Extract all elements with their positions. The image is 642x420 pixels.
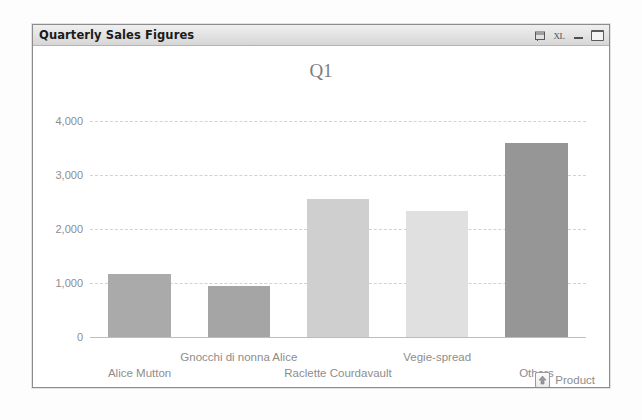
export-report-icon[interactable] — [533, 29, 546, 42]
chart-window: Quarterly Sales Figures XL Q1 01,0002 — [32, 24, 610, 388]
y-tick-label: 1,000 — [55, 277, 83, 289]
plot-area: 01,0002,0003,0004,000 — [90, 121, 586, 337]
page-background: Quarterly Sales Figures XL Q1 01,0002 — [0, 0, 642, 420]
window-titlebar[interactable]: Quarterly Sales Figures XL — [33, 25, 609, 46]
chart-client-area: Q1 01,0002,0003,0004,000 Alice MuttonGno… — [33, 46, 609, 387]
export-excel-icon[interactable]: XL — [552, 29, 566, 42]
minimize-button[interactable] — [572, 29, 585, 42]
x-tick-label[interactable]: Raclette Courdavault — [284, 367, 391, 379]
bar[interactable] — [307, 199, 369, 337]
window-title: Quarterly Sales Figures — [33, 28, 194, 42]
y-tick-label: 2,000 — [55, 223, 83, 235]
x-axis-title-group: Product — [535, 372, 595, 387]
x-axis-labels: Alice MuttonGnocchi di nonna AliceRaclet… — [90, 337, 586, 383]
bar[interactable] — [406, 211, 468, 337]
y-tick-label: 4,000 — [55, 115, 83, 127]
chart-title: Q1 — [33, 60, 609, 82]
x-tick-label[interactable]: Vegie-spread — [403, 351, 471, 363]
y-tick-label: 0 — [77, 331, 83, 343]
bar[interactable] — [208, 286, 270, 337]
x-tick-label[interactable]: Alice Mutton — [108, 367, 171, 379]
maximize-button[interactable] — [591, 30, 604, 41]
bar[interactable] — [505, 143, 567, 337]
up-arrow-icon[interactable] — [535, 372, 550, 387]
y-tick-label: 3,000 — [55, 169, 83, 181]
x-tick-label[interactable]: Gnocchi di nonna Alice — [180, 351, 297, 363]
x-axis-title: Product — [555, 374, 595, 386]
bar-series — [90, 121, 586, 337]
bar[interactable] — [108, 274, 170, 337]
window-controls: XL — [533, 25, 604, 46]
